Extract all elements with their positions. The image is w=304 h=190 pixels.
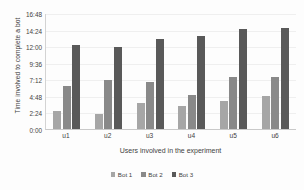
bar-group-u1: [53, 14, 80, 129]
bar-u4-bot-2[interactable]: [188, 95, 196, 129]
bar-u3-bot-3[interactable]: [156, 39, 164, 129]
bar-u3-bot-2[interactable]: [146, 82, 154, 129]
bar-u5-bot-2[interactable]: [229, 77, 237, 129]
bar-group-u6: [262, 14, 289, 129]
bar-group-u4: [178, 14, 205, 129]
legend-item-bot-2[interactable]: Bot 2: [141, 171, 162, 178]
bar-u1-bot-1[interactable]: [53, 111, 61, 129]
bar-u6-bot-2[interactable]: [271, 77, 279, 129]
x-axis-tick-label-u1: u1: [45, 132, 87, 144]
bar-u4-bot-3[interactable]: [197, 36, 205, 129]
x-axis-tick-label-u4: u4: [170, 132, 212, 144]
legend-label: Bot 3: [179, 171, 193, 178]
x-axis-title: Users involved in the experiment: [45, 147, 296, 154]
bar-u4-bot-1[interactable]: [178, 106, 186, 129]
x-axis-tick-labels: u1u2u3u4u5u6: [45, 132, 296, 144]
legend-label: Bot 1: [118, 171, 132, 178]
y-axis-tick-label: 9:36: [14, 60, 42, 67]
legend-swatch-icon: [141, 172, 146, 177]
y-axis-tick-label: 7:12: [14, 77, 42, 84]
bar-u2-bot-1[interactable]: [95, 114, 103, 129]
bar-u5-bot-1[interactable]: [220, 101, 228, 129]
bar-u3-bot-1[interactable]: [137, 103, 145, 129]
bar-u6-bot-1[interactable]: [262, 96, 270, 129]
x-axis-tick-label-u2: u2: [87, 132, 129, 144]
bar-u1-bot-3[interactable]: [72, 45, 80, 129]
legend-item-bot-3[interactable]: Bot 3: [172, 171, 193, 178]
plot-area: [45, 14, 296, 130]
y-axis-tick-label: 2:24: [14, 110, 42, 117]
bar-u1-bot-2[interactable]: [63, 86, 71, 129]
x-axis-tick-label-u5: u5: [212, 132, 254, 144]
bar-u2-bot-3[interactable]: [114, 47, 122, 129]
y-axis-tick-label: 12:00: [14, 44, 42, 51]
y-axis-tick-label: 4:48: [14, 93, 42, 100]
bar-u6-bot-3[interactable]: [281, 28, 289, 129]
legend-swatch-icon: [111, 172, 116, 177]
y-axis-tick-labels: 16:4814:2412:009:367:124:482:240:00: [14, 14, 42, 130]
bar-groups: [46, 14, 296, 129]
bar-chart: Time involved to complete a bot 16:4814:…: [0, 0, 304, 190]
x-axis-tick-label-u3: u3: [129, 132, 171, 144]
y-axis-tick-label: 0:00: [14, 127, 42, 134]
x-axis-tick-label-u6: u6: [254, 132, 296, 144]
y-axis-tick-label: 16:48: [14, 11, 42, 18]
chart-legend: Bot 1Bot 2Bot 3: [0, 171, 304, 178]
bar-u5-bot-3[interactable]: [239, 29, 247, 129]
bar-u2-bot-2[interactable]: [104, 80, 112, 130]
bar-group-u3: [137, 14, 164, 129]
bar-group-u5: [220, 14, 247, 129]
legend-label: Bot 2: [148, 171, 162, 178]
y-axis-tick-label: 14:24: [14, 27, 42, 34]
bar-group-u2: [95, 14, 122, 129]
legend-item-bot-1[interactable]: Bot 1: [111, 171, 132, 178]
legend-swatch-icon: [172, 172, 177, 177]
